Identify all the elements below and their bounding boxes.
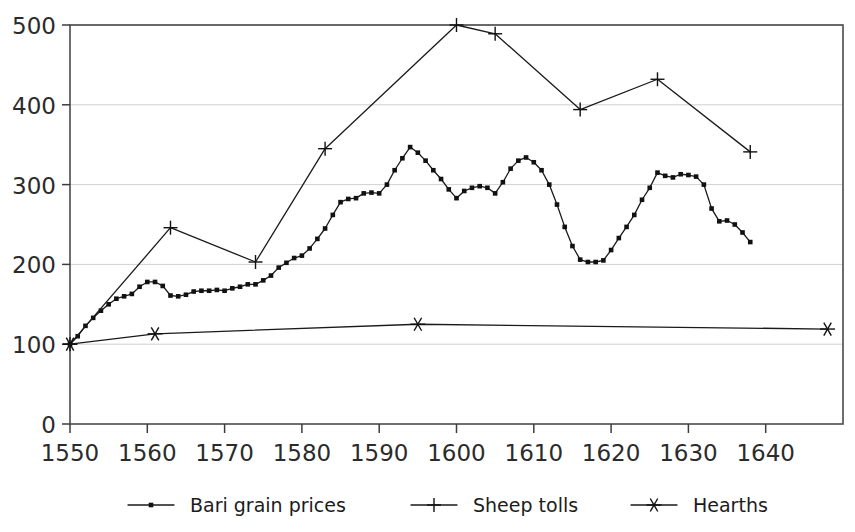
marker-0-55: [493, 191, 498, 196]
marker-0-40: [377, 191, 382, 196]
marker-0-32: [315, 237, 320, 242]
x-tick-label-1640: 1640: [736, 440, 795, 466]
marker-0-60: [532, 160, 537, 165]
marker-0-58: [516, 158, 521, 163]
marker-0-62: [547, 182, 552, 187]
marker-2-3: [820, 323, 835, 336]
marker-0-69: [601, 258, 606, 263]
marker-0-7: [122, 294, 127, 299]
marker-0-44: [408, 145, 413, 150]
marker-0-39: [369, 190, 374, 195]
marker-0-51: [462, 189, 467, 194]
marker-0-66: [578, 257, 583, 262]
marker-0-18: [207, 288, 212, 293]
marker-0-43: [400, 156, 405, 161]
marker-0-87: [740, 230, 745, 235]
x-tick-label-1560: 1560: [118, 440, 177, 466]
marker-0-86: [732, 222, 737, 227]
legend-item-2[interactable]: Hearths: [631, 494, 768, 516]
x-axis-tick-labels: 1550156015701580159016001610162016301640: [41, 440, 795, 466]
marker-0-25: [261, 278, 266, 283]
marker-0-6: [114, 296, 119, 301]
marker-0-77: [663, 174, 668, 179]
marker-0-42: [392, 168, 397, 173]
x-tick-label-1610: 1610: [505, 440, 564, 466]
x-tick-label-1600: 1600: [427, 440, 486, 466]
marker-0-82: [702, 182, 707, 187]
marker-0-68: [593, 260, 598, 265]
legend-item-1[interactable]: Sheep tolls: [411, 494, 578, 516]
marker-0-15: [184, 292, 189, 297]
marker-0-38: [361, 191, 366, 196]
marker-2-1: [148, 327, 163, 340]
marker-0-56: [501, 180, 506, 185]
marker-0-19: [215, 288, 220, 293]
x-tick-label-1570: 1570: [195, 440, 254, 466]
x-tick-label-1550: 1550: [41, 440, 100, 466]
marker-0-10: [145, 280, 150, 285]
marker-0-67: [586, 260, 591, 265]
marker-0-37: [354, 196, 359, 201]
marker-0-72: [624, 225, 629, 230]
marker-0-21: [230, 286, 235, 291]
marker-0-20: [222, 288, 227, 293]
marker-0-16: [191, 289, 196, 294]
marker-0-50: [454, 196, 459, 201]
marker-0-9: [137, 284, 142, 289]
marker-0-71: [617, 236, 622, 241]
series-line-0: [70, 147, 750, 344]
legend-item-0[interactable]: Bari grain prices: [128, 494, 346, 516]
y-tick-label-400: 400: [12, 93, 56, 119]
marker-0-64: [562, 225, 567, 230]
y-tick-label-200: 200: [12, 252, 56, 278]
legend-label-1: Sheep tolls: [473, 494, 578, 516]
marker-0-79: [678, 172, 683, 177]
marker-0-46: [423, 158, 428, 163]
marker-0-34: [331, 213, 336, 218]
x-axis-ticks: [70, 424, 766, 433]
y-tick-label-300: 300: [12, 173, 56, 199]
marker-0-80: [686, 173, 691, 178]
marker-0-49: [446, 187, 451, 192]
marker-0-47: [431, 168, 436, 173]
marker-0-27: [276, 265, 281, 270]
marker-1-2: [249, 255, 263, 269]
marker-0-59: [524, 155, 529, 160]
marker-0-14: [176, 294, 181, 299]
marker-0-83: [709, 206, 714, 211]
marker-0-22: [238, 284, 243, 289]
legend-label-0: Bari grain prices: [190, 494, 346, 516]
marker-0-13: [168, 293, 173, 298]
marker-0-45: [416, 150, 421, 155]
y-axis-ticks: [62, 25, 70, 424]
legend-marker-star: [647, 499, 662, 512]
legend-marker-square: [149, 503, 154, 508]
marker-0-36: [346, 197, 351, 202]
marker-0-81: [694, 174, 699, 179]
plot-frame: [70, 25, 843, 424]
plot-border: [70, 25, 843, 424]
marker-0-54: [485, 185, 490, 190]
marker-0-70: [609, 248, 614, 253]
marker-1-7: [650, 72, 664, 86]
x-tick-label-1590: 1590: [350, 440, 409, 466]
marker-0-53: [477, 184, 482, 189]
marker-0-84: [717, 219, 722, 224]
marker-0-61: [539, 168, 544, 173]
y-tick-label-100: 100: [12, 332, 56, 358]
marker-0-5: [106, 302, 111, 307]
marker-0-33: [323, 226, 328, 231]
legend-label-2: Hearths: [693, 494, 768, 516]
marker-0-11: [153, 280, 158, 285]
marker-0-63: [555, 202, 560, 207]
marker-0-29: [292, 256, 297, 261]
marker-0-24: [253, 282, 258, 287]
marker-0-74: [640, 197, 645, 202]
legend-marker-plus: [427, 498, 441, 512]
y-tick-label-500: 500: [12, 13, 56, 39]
marker-0-26: [269, 273, 274, 278]
marker-0-48: [439, 177, 444, 182]
series-line-2: [70, 324, 828, 344]
series-0: [68, 145, 753, 347]
series-2: [63, 318, 836, 351]
